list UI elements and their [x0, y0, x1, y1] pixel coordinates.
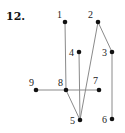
- node-5: [78, 118, 83, 123]
- node-6: [110, 117, 115, 122]
- node-label-7: 7: [93, 75, 98, 86]
- node-2: [96, 20, 101, 25]
- node-label-1: 1: [57, 9, 62, 20]
- edge-1-8: [65, 22, 66, 90]
- node-9: [34, 88, 39, 93]
- node-label-5: 5: [70, 115, 75, 126]
- node-4: [77, 50, 82, 55]
- node-label-8: 8: [58, 77, 63, 88]
- graph-edges: [36, 22, 112, 120]
- node-label-6: 6: [102, 114, 107, 125]
- graph-diagram: 123456789: [0, 0, 125, 133]
- edge-2-5: [80, 22, 98, 120]
- node-7: [97, 88, 102, 93]
- node-label-3: 3: [102, 47, 107, 58]
- edge-4-5: [79, 52, 80, 120]
- node-1: [63, 20, 68, 25]
- node-3: [110, 50, 115, 55]
- node-label-2: 2: [88, 9, 93, 20]
- graph-nodes: 123456789: [29, 9, 114, 126]
- node-label-9: 9: [29, 77, 34, 88]
- node-8: [64, 88, 69, 93]
- node-label-4: 4: [69, 47, 74, 58]
